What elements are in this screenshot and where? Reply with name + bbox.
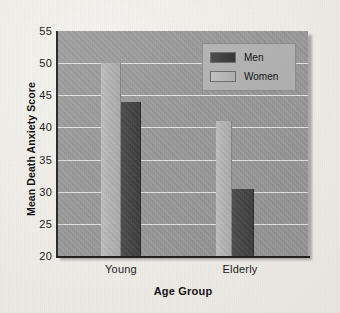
- gridline-40: [56, 127, 308, 128]
- y-tick-label-20: 20: [4, 250, 52, 262]
- x-tick-label-elderly: Elderly: [222, 263, 257, 275]
- legend-item-women: Women: [210, 69, 288, 84]
- plot-area: Men Women: [56, 31, 308, 256]
- y-axis-line: [56, 31, 58, 258]
- bar-young-women: [101, 63, 121, 256]
- gridline-25: [56, 224, 308, 225]
- legend-swatch-men: [210, 52, 236, 63]
- legend: Men Women: [202, 43, 296, 91]
- x-axis-line: [56, 256, 310, 258]
- bar-elderly-men: [232, 189, 254, 257]
- gridline-30: [56, 192, 308, 193]
- legend-swatch-women: [210, 71, 236, 82]
- legend-label-men: Men: [244, 52, 263, 63]
- legend-label-women: Women: [244, 71, 278, 82]
- y-axis-title: Mean Death Anxiety Score: [25, 59, 37, 239]
- gridline-35: [56, 160, 308, 161]
- x-axis-title: Age Group: [56, 285, 310, 297]
- gridline-45: [56, 95, 308, 96]
- legend-item-men: Men: [210, 50, 288, 65]
- figure-root: Men Women 55 50 45 40 35 30 25 20 Young …: [0, 0, 340, 313]
- bar-elderly-women: [216, 121, 232, 256]
- bar-young-men: [121, 102, 141, 256]
- y-tick-label-55: 55: [4, 25, 52, 37]
- x-tick-label-young: Young: [105, 263, 137, 275]
